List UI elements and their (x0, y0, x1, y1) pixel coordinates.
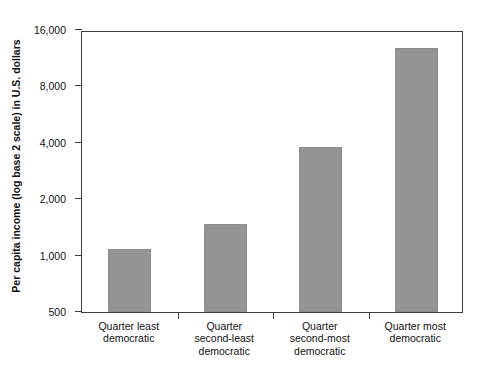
y-axis-tick-label: 8,000 (40, 80, 66, 92)
x-axis-category-label-line: second-most (272, 332, 368, 344)
y-axis-tick: 16,000 (75, 29, 82, 30)
x-axis-tick (178, 312, 179, 319)
bar (299, 147, 342, 312)
x-axis-category-label: Quartersecond-mostdemocratic (272, 320, 368, 357)
x-axis-category-label-line: Quarter (177, 320, 273, 332)
x-axis-category-label-line: democratic (81, 332, 177, 344)
y-axis-tick-label: 500 (48, 306, 66, 318)
x-axis-category-label-line: democratic (177, 345, 273, 357)
x-axis-tick (273, 312, 274, 319)
x-axis-category-label-line: Quarter (272, 320, 368, 332)
bar (395, 48, 438, 312)
y-axis-tick: 1,000 (75, 255, 82, 256)
x-axis-category-label-line: Quarter least (81, 320, 177, 332)
x-axis-category-label-line: second-least (177, 332, 273, 344)
bar (108, 249, 151, 312)
x-axis-category-label: Quarter leastdemocratic (81, 320, 177, 345)
y-axis-title: Per capita income (log base 2 scale) in … (10, 36, 22, 296)
y-axis-tick-label: 1,000 (40, 250, 66, 262)
x-axis-category-label: Quartersecond-leastdemocratic (177, 320, 273, 357)
plot-area: 5001,0002,0004,0008,00016,000 (81, 31, 463, 313)
y-axis-tick: 2,000 (75, 198, 82, 199)
y-axis-tick: 4,000 (75, 142, 82, 143)
x-axis-tick (369, 312, 370, 319)
bar (204, 224, 247, 312)
y-axis-tick: 500 (75, 311, 82, 312)
y-axis-tick-label: 4,000 (40, 137, 66, 149)
x-axis-category-label: Quarter mostdemocratic (368, 320, 464, 345)
bar-chart-figure: Per capita income (log base 2 scale) in … (0, 0, 483, 375)
x-axis-category-label-line: democratic (272, 345, 368, 357)
x-axis-category-label-line: democratic (368, 332, 464, 344)
x-axis-category-label-line: Quarter most (368, 320, 464, 332)
y-axis-tick: 8,000 (75, 85, 82, 86)
y-axis-tick-label: 2,000 (40, 193, 66, 205)
y-axis-tick-label: 16,000 (34, 24, 66, 36)
